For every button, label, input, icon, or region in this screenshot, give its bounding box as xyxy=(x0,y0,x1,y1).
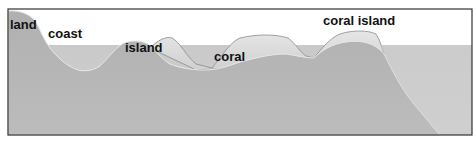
label-coast: coast xyxy=(48,27,82,40)
label-land: land xyxy=(10,18,37,31)
diagram-frame: land coast island coral coral island xyxy=(0,0,476,141)
label-coral: coral xyxy=(214,50,245,63)
label-island: island xyxy=(125,41,163,54)
cross-section-illustration xyxy=(0,0,476,141)
label-coral-island: coral island xyxy=(323,14,395,27)
